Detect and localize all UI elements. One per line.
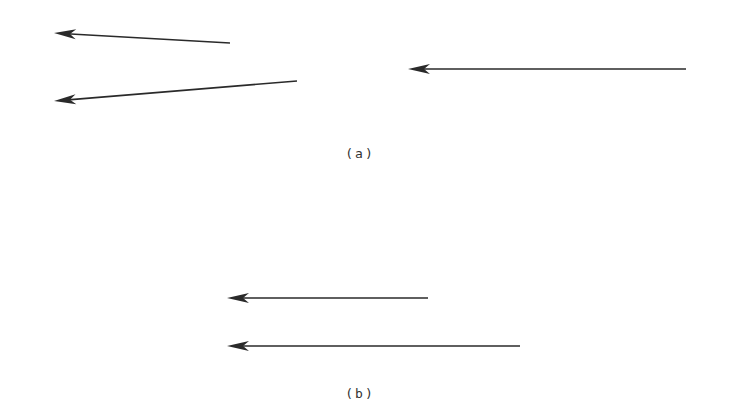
panel-b-label: (b) <box>345 386 374 401</box>
arrow-a-upper-left-shaft <box>62 33 230 43</box>
arrow-a-lower-left-shaft <box>62 81 297 100</box>
diagram-canvas <box>0 0 739 416</box>
panel-a-label: (a) <box>345 146 374 161</box>
panel-a <box>54 29 686 104</box>
panel-b <box>227 293 520 351</box>
